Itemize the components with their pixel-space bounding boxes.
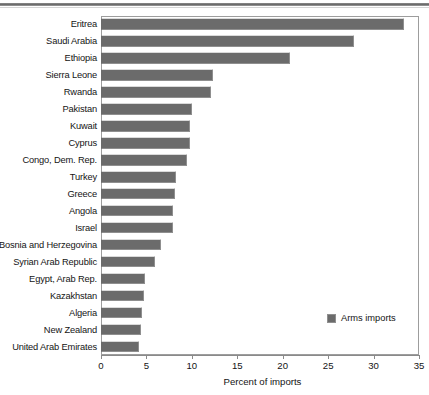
x-axis-tick	[237, 355, 238, 359]
bar	[101, 273, 145, 284]
legend-swatch-arms-imports	[327, 314, 336, 323]
bar-category-label: Pakistan	[63, 104, 97, 114]
bar-category-label: Kuwait	[70, 121, 97, 131]
bar-category-label: Congo, Dem. Rep.	[22, 155, 97, 165]
bar-row: Kuwait	[0, 118, 429, 135]
bar-row: Greece	[0, 186, 429, 203]
bar-row: Rwanda	[0, 84, 429, 101]
bar-row: Angola	[0, 202, 429, 219]
x-axis-line	[101, 355, 419, 356]
bar-row: Saudi Arabia	[0, 33, 429, 50]
bar	[101, 172, 176, 183]
bar-category-label: United Arab Emirates	[12, 342, 97, 352]
bar-row: Cyprus	[0, 135, 429, 152]
bar-category-label: Egypt, Arab Rep.	[29, 274, 97, 284]
x-axis-tick-label: 35	[414, 360, 425, 371]
bar-category-label: Eritrea	[71, 19, 97, 29]
bar-category-label: Rwanda	[64, 87, 97, 97]
bar	[101, 290, 144, 301]
bar	[101, 206, 173, 217]
x-axis-tick-label: 20	[277, 360, 288, 371]
bar-row: Bosnia and Herzegovina	[0, 236, 429, 253]
x-axis-tick-label: 15	[232, 360, 243, 371]
bar	[101, 121, 190, 132]
bar	[101, 155, 187, 166]
bar-category-label: Israel	[75, 223, 97, 233]
x-axis-tick-label: 5	[144, 360, 149, 371]
bar	[101, 189, 175, 200]
legend-label-arms-imports: Arms imports	[341, 313, 396, 323]
bar	[101, 104, 192, 115]
bar	[101, 341, 139, 352]
x-axis-tick-label: 30	[368, 360, 379, 371]
bar	[101, 324, 141, 335]
bar-row: Kazakhstan	[0, 287, 429, 304]
bar	[101, 307, 142, 318]
bar-row: Syrian Arab Republic	[0, 253, 429, 270]
bar	[101, 70, 213, 81]
bar	[101, 87, 211, 98]
bar-row: Pakistan	[0, 101, 429, 118]
x-axis-tick	[419, 355, 420, 359]
x-axis-tick	[101, 355, 102, 359]
x-axis-title: Percent of imports	[0, 376, 429, 387]
x-axis-tick	[328, 355, 329, 359]
bar-category-label: Kazakhstan	[50, 291, 97, 301]
bar	[101, 240, 161, 251]
x-axis-tick	[192, 355, 193, 359]
bar-row: Turkey	[0, 169, 429, 186]
bar-category-label: Ethiopia	[65, 53, 97, 63]
page-rule-top-secondary	[0, 7, 429, 8]
x-axis-tick-label: 10	[187, 360, 198, 371]
bar-row: Ethiopia	[0, 50, 429, 67]
bar-category-label: New Zealand	[44, 325, 97, 335]
bar-row: Sierra Leone	[0, 67, 429, 84]
x-axis-title-text: Percent of imports	[128, 376, 302, 387]
bar-category-label: Syrian Arab Republic	[13, 257, 97, 267]
bar	[101, 53, 290, 64]
bar-category-label: Sierra Leone	[46, 70, 97, 80]
bar-category-label: Cyprus	[68, 138, 97, 148]
bar-category-label: Bosnia and Herzegovina	[0, 240, 97, 250]
chart-figure: EritreaSaudi ArabiaEthiopiaSierra LeoneR…	[0, 0, 429, 395]
bar-rows: EritreaSaudi ArabiaEthiopiaSierra LeoneR…	[0, 16, 429, 355]
bar-row: Congo, Dem. Rep.	[0, 152, 429, 169]
bar-row: New Zealand	[0, 321, 429, 338]
bar	[101, 223, 173, 234]
chart-legend: Arms imports	[327, 313, 396, 323]
bar-row: United Arab Emirates	[0, 338, 429, 355]
bar-row: Eritrea	[0, 16, 429, 33]
bar	[101, 19, 404, 30]
x-axis-tick-label: 0	[98, 360, 103, 371]
x-axis-tick-label: 25	[323, 360, 334, 371]
bar-category-label: Saudi Arabia	[46, 36, 97, 46]
bar-category-label: Turkey	[70, 172, 97, 182]
bar	[101, 36, 354, 47]
bar-category-label: Angola	[69, 206, 97, 216]
page-rule-top	[0, 3, 429, 6]
bar	[101, 257, 155, 268]
bar-category-label: Algeria	[69, 308, 97, 318]
x-axis-tick	[283, 355, 284, 359]
bar-row: Israel	[0, 219, 429, 236]
bar	[101, 138, 190, 149]
bar-row: Egypt, Arab Rep.	[0, 270, 429, 287]
bar-category-label: Greece	[67, 189, 97, 199]
x-axis-tick	[374, 355, 375, 359]
x-axis-tick	[146, 355, 147, 359]
